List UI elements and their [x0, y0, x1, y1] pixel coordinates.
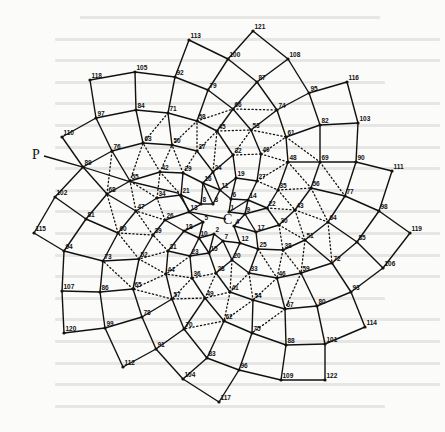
lattice-point	[275, 276, 278, 279]
point-label: 121	[255, 23, 266, 30]
solid-edge	[236, 178, 257, 181]
solid-edge	[252, 333, 286, 345]
point-label: 122	[327, 372, 338, 379]
point-label: 93	[353, 284, 361, 291]
lattice-point	[279, 378, 282, 381]
solid-edge	[239, 370, 281, 380]
lattice-point	[326, 220, 329, 223]
lattice-point	[355, 240, 358, 243]
lattice-point	[181, 377, 184, 380]
point-label: 87	[259, 74, 267, 81]
lattice-point	[128, 179, 131, 182]
lattice-point	[226, 57, 229, 60]
point-label: 114	[367, 319, 378, 326]
lattice-point	[151, 233, 154, 236]
solid-edge	[165, 220, 184, 231]
solid-edge	[209, 253, 216, 273]
pointer-label-p: P	[32, 147, 40, 162]
solid-edge	[277, 110, 286, 137]
dotted-edge	[133, 289, 172, 299]
lattice-point	[84, 217, 87, 220]
lattice-point	[356, 121, 359, 124]
point-label: 120	[66, 325, 77, 332]
center-label-c: C	[223, 212, 232, 227]
dotted-edge	[328, 222, 332, 263]
point-label: 40	[263, 146, 271, 153]
dotted-edge	[118, 233, 139, 259]
lattice-point	[330, 261, 333, 264]
dotted-edge	[258, 249, 277, 278]
point-label: 20	[234, 252, 242, 259]
point-label: 115	[36, 225, 47, 232]
solid-edge	[240, 243, 258, 249]
solid-edge	[96, 118, 112, 151]
lattice-point	[230, 258, 233, 261]
lattice-point	[228, 290, 231, 293]
point-label: 71	[170, 105, 178, 112]
lattice-point	[173, 75, 176, 78]
point-label: 117	[221, 394, 232, 401]
point-label: 32	[235, 147, 243, 154]
point-label: 36	[194, 270, 202, 277]
solid-edge	[251, 130, 261, 154]
point-label: 74	[279, 102, 287, 109]
point-label: 26	[167, 212, 175, 219]
solid-edge	[328, 222, 357, 242]
lattice-point	[88, 78, 91, 81]
lattice-point	[251, 298, 254, 301]
point-label: 39	[155, 227, 163, 234]
lattice-point	[140, 315, 143, 318]
solid-edge	[228, 59, 257, 82]
solid-edge	[136, 110, 143, 143]
lattice-point	[182, 229, 185, 232]
solid-edge	[288, 59, 309, 93]
lattice-point	[201, 181, 204, 184]
point-label: 76	[114, 143, 122, 150]
point-label: 47	[138, 203, 146, 210]
dotted-edge	[279, 225, 283, 250]
lattice-point	[166, 111, 169, 114]
point-label: 24	[215, 164, 223, 171]
dotted-edge	[217, 130, 251, 131]
solid-edge	[216, 273, 230, 292]
solid-edge	[249, 273, 277, 278]
point-label: 108	[290, 51, 301, 58]
point-label: 55	[132, 173, 140, 180]
solid-edge	[267, 208, 279, 225]
solid-edge	[62, 291, 64, 333]
lattice-point	[345, 80, 348, 83]
lattice-point	[377, 209, 380, 212]
lattice-point	[158, 170, 161, 173]
lattice-point	[134, 108, 137, 111]
point-label: 5	[205, 214, 209, 221]
point-label: 2	[216, 226, 220, 233]
point-label: 67	[287, 301, 295, 308]
dotted-edge	[130, 181, 157, 198]
solid-edge	[257, 82, 277, 110]
point-label: 85	[359, 234, 367, 241]
lattice-point	[354, 160, 357, 163]
lattice-point	[116, 231, 119, 234]
lattice-point	[309, 186, 312, 189]
solid-edge	[135, 72, 175, 77]
solid-edge	[345, 196, 379, 211]
lattice-point	[121, 365, 124, 368]
point-label: 43	[297, 202, 305, 209]
lattice-point	[203, 296, 206, 299]
point-label: 80	[319, 298, 327, 305]
lattice-point	[170, 143, 173, 146]
solid-edge	[347, 82, 358, 123]
lattice-point	[199, 202, 202, 205]
lattice-point	[166, 249, 169, 252]
point-label: 18	[186, 223, 194, 230]
point-label: 27	[259, 173, 267, 180]
point-label: 58	[199, 113, 207, 120]
point-label: 22	[269, 200, 277, 207]
point-label: 3	[215, 196, 219, 203]
solid-edge	[64, 251, 103, 261]
solid-edge	[233, 155, 236, 178]
lattice-point	[201, 220, 204, 223]
solid-edge	[234, 226, 240, 243]
lattice-point	[94, 116, 97, 119]
point-label: 44	[168, 266, 176, 273]
